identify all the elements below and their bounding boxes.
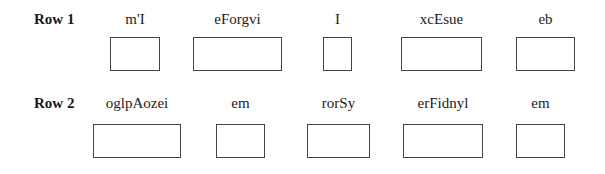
row-2-field-2-label: em <box>216 94 265 112</box>
row-1-field-1-box[interactable] <box>110 37 160 71</box>
row-1-field-1-label: m'I <box>110 10 160 28</box>
row-1-field-4-label: xcEsue <box>401 10 482 28</box>
row-1-label: Row 1 <box>34 10 74 28</box>
row-2-field-3-box[interactable] <box>307 124 370 158</box>
row-1-field-5-box[interactable] <box>516 37 575 71</box>
row-2-field-4-box[interactable] <box>403 124 483 158</box>
row-1-field-5-label: eb <box>516 10 575 28</box>
row-1-field-3-box[interactable] <box>323 37 352 71</box>
row-1-field-2-box[interactable] <box>193 37 282 71</box>
row-2-field-5-box[interactable] <box>516 124 565 158</box>
row-2-field-5-label: em <box>516 94 565 112</box>
row-2-label: Row 2 <box>34 94 74 112</box>
row-1-field-4-box[interactable] <box>401 37 482 71</box>
row-2-field-2-box[interactable] <box>216 124 265 158</box>
row-1-field-2-label: eForgvi <box>193 10 282 28</box>
row-2-field-3-label: rorSy <box>307 94 370 112</box>
row-2-field-1-label: oglpAozei <box>93 94 181 112</box>
row-1-field-3-label: I <box>323 10 352 28</box>
row-2-field-4-label: erFidnyl <box>403 94 483 112</box>
row-2-field-1-box[interactable] <box>93 124 181 158</box>
